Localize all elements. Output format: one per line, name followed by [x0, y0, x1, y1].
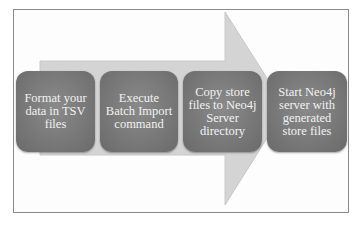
step-3-box: Copy store files to Neo4j Server directo… [183, 71, 262, 152]
step-4-label: Start Neo4j server with generated store … [271, 86, 343, 138]
step-2-box: Execute Batch Import command [100, 71, 178, 152]
step-2-label: Execute Batch Import command [104, 92, 174, 131]
step-1-box: Format your data in TSV files [16, 71, 95, 152]
step-1-label: Format your data in TSV files [20, 92, 91, 131]
step-4-box: Start Neo4j server with generated store … [267, 71, 347, 152]
step-3-label: Copy store files to Neo4j Server directo… [187, 86, 258, 138]
